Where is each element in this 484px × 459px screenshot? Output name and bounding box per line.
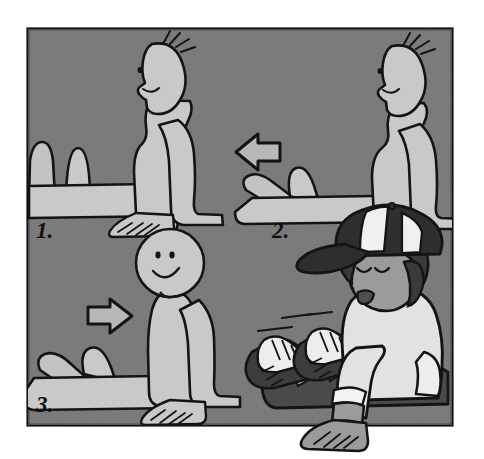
cartoon-illustration: 1. 2.	[0, 0, 484, 459]
cap-button	[389, 203, 395, 209]
step-3-number: 3.	[35, 392, 53, 417]
eye-right	[169, 252, 174, 259]
eye	[138, 67, 143, 73]
illustration-canvas: 1. 2.	[0, 0, 484, 459]
cap-panel-white-1	[360, 207, 388, 252]
mouth	[358, 290, 374, 304]
eye	[378, 68, 383, 74]
eye-left	[155, 252, 160, 259]
step-2-number: 2.	[271, 218, 289, 243]
step-1-number: 1.	[36, 218, 53, 243]
